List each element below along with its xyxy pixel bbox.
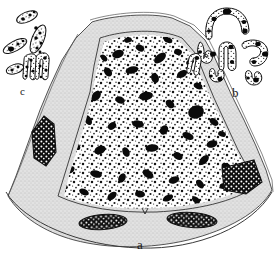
chromosome-c4 <box>5 62 25 76</box>
panel-label-a: a <box>137 238 143 251</box>
chromosome-c1 <box>15 8 39 26</box>
panel-c-chromosomes <box>1 8 49 80</box>
chromosome-b4 <box>242 40 268 66</box>
chromosome-c2 <box>27 23 49 55</box>
chromosome-c6 <box>35 53 49 80</box>
panel-b-chromosomes <box>187 8 268 85</box>
chromosome-c3 <box>1 35 29 56</box>
panel-label-b: b <box>232 86 239 99</box>
chromosome-b3 <box>219 42 236 71</box>
figure-canvas: a b c <box>0 0 274 258</box>
panel-label-c: c <box>20 86 25 97</box>
figure-drawing <box>0 0 274 258</box>
chromosome-b6 <box>245 71 261 85</box>
chromosome-b1 <box>206 8 249 39</box>
